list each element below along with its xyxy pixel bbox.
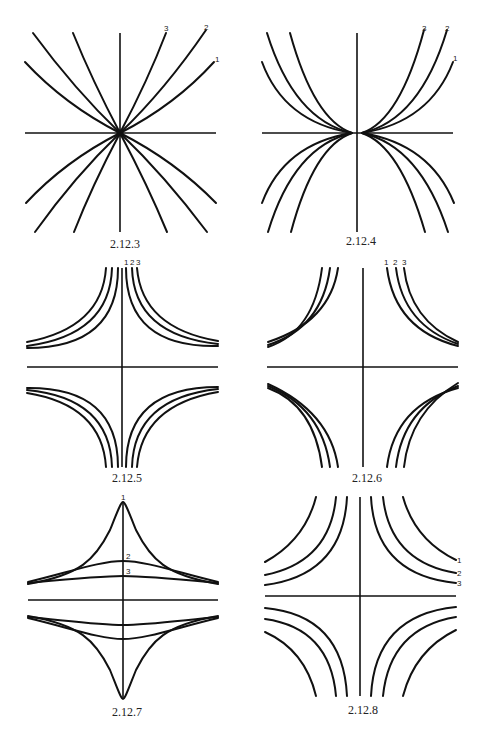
curve-3 [362,30,424,133]
curve-label-3: 3 [164,24,169,33]
curve-label-1: 1 [453,54,458,63]
figure-2-12-4: 3 2 1 2.12.4 [262,24,458,248]
figure-caption: 2.12.7 [112,705,142,719]
curve-label-3: 3 [422,24,427,33]
curve-2 [120,30,206,133]
figure-2-12-5: 1 2 3 2.12.5 [27,258,218,485]
curve-label-3: 3 [457,579,462,588]
curve-label-2: 2 [126,552,131,561]
curve-label-1: 1 [124,258,129,267]
curve-3 [137,268,218,341]
curve-label-2: 2 [393,258,398,267]
curve-label-3: 3 [126,567,131,576]
curve-label-2: 2 [130,258,135,267]
curve-label-1: 1 [215,55,220,64]
curve-1 [120,62,214,133]
curve-1 [403,497,456,560]
figure-caption: 2.12.8 [348,703,378,717]
curve-2 [383,497,456,573]
figure-caption: 2.12.3 [110,237,140,251]
figure-2-12-8: 1 2 3 2.12.8 [265,497,462,717]
figure-2-12-6: 1 2 3 2.12.6 [267,258,458,485]
curve-label-1: 1 [121,493,126,502]
figure-caption: 2.12.6 [352,471,382,485]
curve-label-1: 1 [457,556,462,565]
curve-label-2: 2 [445,24,450,33]
figure-caption: 2.12.4 [346,234,376,248]
curve-label-3: 3 [402,258,407,267]
curve-1 [126,268,218,346]
curve-label-2: 2 [457,569,462,578]
curve-2 [362,30,447,133]
curve-1 [362,62,453,133]
curve-label-1: 1 [384,258,389,267]
figure-2-12-3: 3 2 1 2.12.3 [25,23,220,251]
figure-2-12-7: 1 2 3 2.12.7 [28,493,218,719]
figure-page: 3 2 1 2.12.3 3 2 1 2.12.4 [0,0,488,745]
figure-caption: 2.12.5 [112,471,142,485]
curve-2 [132,268,218,344]
curve-3 [120,33,166,133]
curve-label-3: 3 [136,258,141,267]
curve-label-2: 2 [204,23,209,32]
